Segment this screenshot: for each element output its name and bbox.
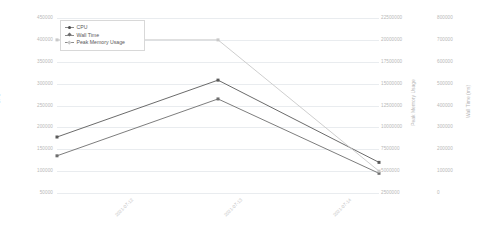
legend-label: Wall Time [77, 33, 100, 38]
data-point-marker[interactable] [217, 79, 220, 82]
legend-item-wall-time[interactable]: Wall Time [65, 32, 140, 40]
data-point-marker[interactable] [56, 38, 59, 41]
data-point-marker[interactable] [378, 170, 381, 173]
legend-item-cpu[interactable]: CPU [65, 24, 140, 32]
data-point-marker[interactable] [217, 97, 220, 100]
legend-label: CPU [77, 25, 88, 30]
legend-item-peak-memory-usage[interactable]: Peak Memory Usage [65, 39, 140, 47]
data-point-marker[interactable] [56, 154, 59, 157]
data-point-marker[interactable] [378, 161, 381, 164]
legend-marker-diamond-icon [65, 39, 74, 46]
legend-marker-diamond-icon [65, 32, 74, 39]
data-point-marker[interactable] [217, 38, 220, 41]
series-line [57, 99, 379, 173]
chart-container: 450000 400000 350000 300000 250000 20000… [0, 0, 486, 231]
data-point-marker[interactable] [56, 136, 59, 139]
series-line [57, 80, 379, 162]
legend-label: Peak Memory Usage [77, 40, 125, 45]
legend-marker-circle-icon [65, 24, 74, 31]
legend: CPU Wall Time Peak Memory Usage [60, 20, 145, 51]
